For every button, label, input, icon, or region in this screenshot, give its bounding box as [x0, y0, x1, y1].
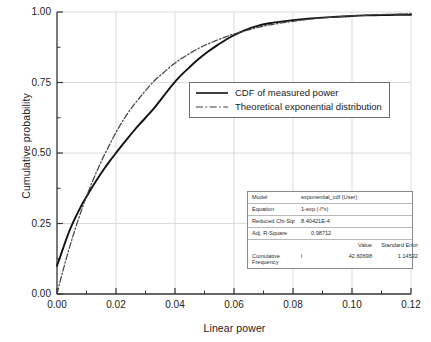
y-tick-label: 0.00	[17, 288, 51, 299]
y-axis-label: Cumulative probability	[20, 66, 32, 226]
x-tick-label: 0.02	[96, 299, 136, 310]
y-tick-label: 0.50	[17, 147, 51, 158]
cell-param-value: 42.60698	[331, 251, 374, 268]
cell-model-label: Model	[248, 192, 299, 203]
cell-equation-value: 1-exp (-l*x)	[299, 204, 412, 215]
table-row-model: Model exponential_cdf (User)	[248, 192, 412, 204]
legend-swatch-dashdot-icon	[195, 102, 229, 112]
table-row-parameter: Cumulative Frequency l 42.60698 1.14532	[248, 251, 412, 268]
legend-item-measured: CDF of measured power	[195, 86, 382, 100]
table-row-adj-rsquare: Adj. R-Square 0.98712	[248, 228, 412, 240]
cell-reduced-chisq-value: 8.40421E-4	[299, 216, 412, 227]
y-tick-label: 1.00	[17, 6, 51, 17]
legend-label-theoretical: Theoretical exponential distribution	[235, 102, 382, 112]
legend-swatch-solid-icon	[195, 88, 229, 98]
cell-param-label: Cumulative Frequency	[248, 251, 299, 268]
y-tick-label: 0.25	[17, 218, 51, 229]
x-tick-label: 0.12	[391, 299, 431, 310]
cell-model-value: exponential_cdf (User)	[299, 192, 412, 203]
cell-param-symbol: l	[299, 251, 331, 268]
x-axis-label: Linear power	[57, 322, 412, 334]
table-row-equation: Equation 1-exp (-l*x)	[248, 204, 412, 216]
cell-stderr-header: Standard Error	[374, 240, 421, 251]
plot-canvas	[0, 0, 431, 342]
cell-blank-symbol	[299, 240, 331, 251]
x-tick-label: 0.08	[273, 299, 313, 310]
chart-figure: Cumulative probability Linear power 0.00…	[0, 0, 431, 342]
cell-blank-label	[248, 240, 299, 251]
cell-equation-label: Equation	[248, 204, 299, 215]
chart-legend: CDF of measured power Theoretical expone…	[189, 82, 390, 118]
x-tick-label: 0.00	[37, 299, 77, 310]
y-tick-label: 0.75	[17, 77, 51, 88]
cell-adj-rsquare-value: 0.98712	[299, 228, 412, 239]
x-tick-label: 0.04	[155, 299, 195, 310]
x-tick-label: 0.06	[214, 299, 254, 310]
legend-label-measured: CDF of measured power	[235, 88, 338, 98]
table-row-column-headers: Value Standard Error	[248, 240, 412, 251]
fit-results-table: Model exponential_cdf (User) Equation 1-…	[247, 191, 413, 269]
table-row-reduced-chisq: Reduced Chi-Sqr 8.40421E-4	[248, 216, 412, 228]
cell-param-stderr: 1.14532	[374, 251, 421, 268]
x-tick-label: 0.10	[332, 299, 372, 310]
cell-reduced-chisq-label: Reduced Chi-Sqr	[248, 216, 299, 227]
legend-item-theoretical: Theoretical exponential distribution	[195, 100, 382, 114]
cell-adj-rsquare-label: Adj. R-Square	[248, 228, 299, 239]
cell-value-header: Value	[331, 240, 374, 251]
